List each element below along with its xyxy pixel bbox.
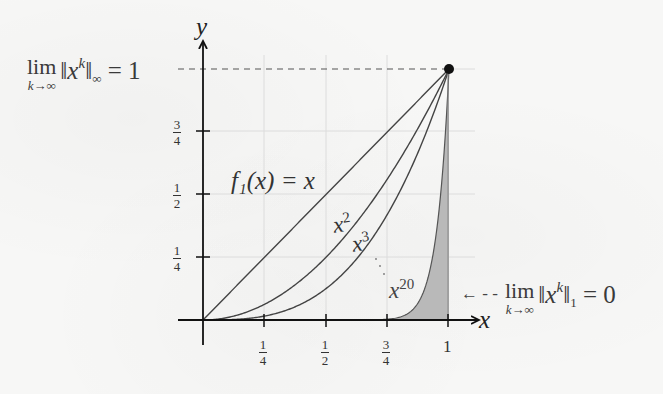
x-tick-label-one: 1 <box>443 338 452 355</box>
x-axis-label: x <box>479 307 490 332</box>
speck <box>379 265 381 267</box>
y-axis-label: y <box>196 14 207 39</box>
point-one-one <box>444 64 454 74</box>
x-tick-label-half: 12 <box>321 338 329 367</box>
l1-norm-expression: ‖xk‖1 = 0 <box>538 280 615 309</box>
curve-label-x2: x2 <box>331 210 352 237</box>
x20-base: x <box>389 278 399 303</box>
lim-subscript: k→∞ <box>28 79 56 92</box>
curve-label-f1: f₁(x) = x <box>231 168 315 193</box>
x20-exponent: 20 <box>399 276 414 292</box>
y-tick-label-three-quarters: 34 <box>173 118 181 147</box>
y-tick-label-quarter: 14 <box>173 244 181 273</box>
l1-norm-limit-annotation: lim k→∞ ‖xk‖1 = 0 <box>505 280 616 316</box>
speck <box>375 258 377 260</box>
sup-norm-limit-annotation: lim k→∞ ‖xk‖∞ = 1 <box>27 56 141 92</box>
lim-word: lim <box>27 56 56 78</box>
y-tick-label-half: 12 <box>173 181 181 210</box>
l1-arrow: ← - - <box>461 285 498 302</box>
speck <box>383 273 385 275</box>
sup-norm-expression: ‖xk‖∞ = 1 <box>60 56 140 85</box>
curve-label-x3: x3 <box>350 229 371 256</box>
lim-subscript: k→∞ <box>506 303 534 316</box>
lim-word: lim <box>505 280 534 302</box>
curve-label-x20: x20 <box>389 277 414 302</box>
x-tick-label-quarter: 14 <box>259 338 267 367</box>
x-tick-label-three-quarters: 34 <box>382 338 390 367</box>
